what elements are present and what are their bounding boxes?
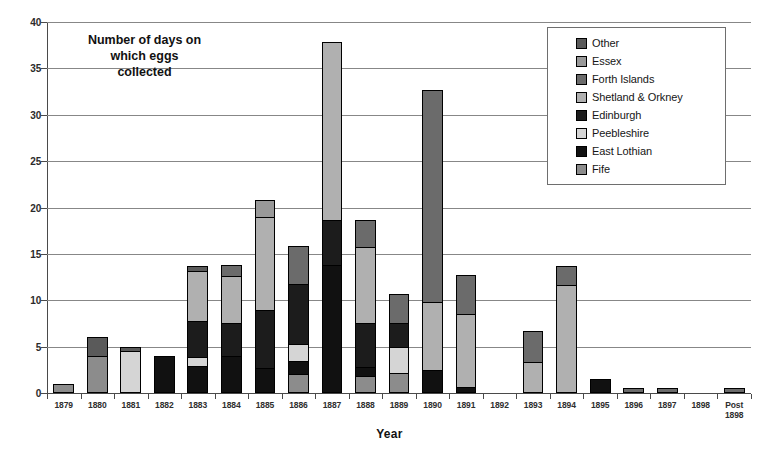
legend-label: Essex — [592, 55, 621, 67]
bar-segment[interactable] — [523, 331, 544, 363]
legend-swatch — [576, 110, 587, 121]
x-axis-tick-label: 1892 — [490, 401, 509, 411]
bar-column[interactable] — [523, 331, 544, 393]
x-axis-tick-mark — [382, 394, 383, 399]
bar-segment[interactable] — [255, 217, 276, 310]
bar-segment[interactable] — [87, 356, 108, 393]
x-axis-tick-label: 1895 — [591, 401, 610, 411]
x-axis-tick-mark — [181, 394, 182, 399]
bar-segment[interactable] — [221, 356, 242, 393]
bar-segment[interactable] — [221, 276, 242, 322]
y-axis: 0510152025303540 — [0, 0, 41, 461]
y-axis-tick-label: 0 — [1, 388, 41, 399]
x-axis-tick-mark — [114, 394, 115, 399]
bar-segment[interactable] — [355, 367, 376, 376]
bar-segment[interactable] — [288, 374, 309, 393]
bar-segment[interactable] — [221, 323, 242, 356]
bar-segment[interactable] — [456, 275, 477, 314]
bar-column[interactable] — [322, 42, 343, 393]
x-axis-tick-label: 1882 — [155, 401, 174, 411]
bar-segment[interactable] — [389, 347, 410, 373]
bar-segment[interactable] — [322, 42, 343, 219]
bar-segment[interactable] — [355, 247, 376, 323]
bar-segment[interactable] — [456, 314, 477, 386]
bar-segment[interactable] — [255, 200, 276, 217]
bar-segment[interactable] — [187, 321, 208, 357]
x-axis-tick-label: 1880 — [88, 401, 107, 411]
bar-column[interactable] — [355, 220, 376, 393]
bar-segment[interactable] — [187, 366, 208, 393]
bar-segment[interactable] — [255, 310, 276, 368]
bar-segment[interactable] — [154, 356, 175, 393]
plot-title: Number of days onwhich eggscollected — [57, 32, 232, 80]
bar-column[interactable] — [389, 294, 410, 393]
x-axis-tick-label: 1887 — [323, 401, 342, 411]
legend-item[interactable]: Peebleshire — [552, 124, 721, 142]
bar-segment[interactable] — [288, 284, 309, 344]
bar-column[interactable] — [154, 356, 175, 393]
bar-segment[interactable] — [355, 220, 376, 248]
bar-column[interactable] — [556, 266, 577, 393]
bar-segment[interactable] — [523, 362, 544, 393]
y-axis-tick-label: 5 — [1, 341, 41, 352]
bar-column[interactable] — [120, 347, 141, 393]
bar-segment[interactable] — [53, 384, 74, 393]
x-axis-tick-mark — [215, 394, 216, 399]
bar-segment[interactable] — [422, 370, 443, 393]
legend-swatch — [576, 74, 587, 85]
bar-segment[interactable] — [422, 90, 443, 302]
bar-segment[interactable] — [322, 265, 343, 393]
legend-label: Other — [592, 37, 619, 49]
bar-segment[interactable] — [87, 337, 108, 356]
bar-segment[interactable] — [288, 344, 309, 361]
bar-column[interactable] — [288, 246, 309, 393]
bar-segment[interactable] — [355, 323, 376, 367]
bar-segment[interactable] — [187, 357, 208, 366]
x-axis-tick-mark — [349, 394, 350, 399]
x-axis-tick-mark — [81, 394, 82, 399]
legend-item[interactable]: Forth Islands — [552, 70, 721, 88]
bar-segment[interactable] — [322, 220, 343, 265]
bar-column[interactable] — [87, 337, 108, 393]
bar-column[interactable] — [590, 379, 611, 393]
legend-item[interactable]: East Lothian — [552, 142, 721, 160]
bar-segment[interactable] — [187, 271, 208, 321]
bar-column[interactable] — [456, 275, 477, 393]
legend-item[interactable]: Other — [552, 34, 721, 52]
x-axis-tick-label: 1891 — [457, 401, 476, 411]
bar-segment[interactable] — [355, 376, 376, 393]
legend-item[interactable]: Essex — [552, 52, 721, 70]
x-axis-tick-label: 1889 — [390, 401, 409, 411]
plot-title-line: which eggs — [110, 49, 178, 63]
legend-swatch — [576, 128, 587, 139]
bar-segment[interactable] — [120, 351, 141, 393]
legend-item[interactable]: Edinburgh — [552, 106, 721, 124]
chart-container: 0510152025303540 Number of days onwhich … — [0, 0, 779, 461]
x-axis-tick-mark — [148, 394, 149, 399]
legend-swatch — [576, 92, 587, 103]
bar-column[interactable] — [255, 200, 276, 393]
bar-segment[interactable] — [556, 266, 577, 285]
x-axis-tick-label: 1898 — [691, 401, 710, 411]
legend-swatch — [576, 56, 587, 67]
bar-segment[interactable] — [556, 285, 577, 393]
bar-segment[interactable] — [221, 265, 242, 276]
bar-segment[interactable] — [255, 368, 276, 393]
bar-segment[interactable] — [389, 294, 410, 323]
legend-item[interactable]: Fife — [552, 160, 721, 178]
bar-segment[interactable] — [389, 373, 410, 393]
x-axis-tick-mark — [583, 394, 584, 399]
plot-title-line: Number of days on — [88, 33, 201, 47]
x-axis-tick-mark — [617, 394, 618, 399]
bar-segment[interactable] — [422, 302, 443, 370]
bar-column[interactable] — [53, 384, 74, 393]
legend-swatch — [576, 146, 587, 157]
bar-column[interactable] — [422, 90, 443, 393]
bar-segment[interactable] — [590, 379, 611, 393]
bar-segment[interactable] — [288, 246, 309, 283]
bar-segment[interactable] — [389, 323, 410, 347]
bar-column[interactable] — [187, 266, 208, 393]
bar-segment[interactable] — [288, 361, 309, 375]
bar-column[interactable] — [221, 265, 242, 393]
legend-item[interactable]: Shetland & Orkney — [552, 88, 721, 106]
